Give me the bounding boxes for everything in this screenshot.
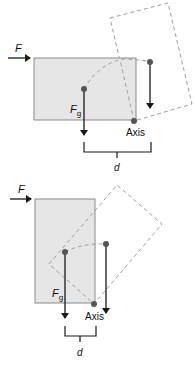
top-axis-label: Axis xyxy=(126,127,145,138)
top-distance-bracket xyxy=(84,142,151,158)
top-center-of-mass-dot xyxy=(81,86,87,92)
bottom-rotated-com-dot xyxy=(103,241,109,247)
bottom-diagram: F Fg Axis d xyxy=(10,183,162,358)
torque-tipping-diagram: F Fg Axis d F Fg xyxy=(0,0,195,369)
top-force-label: F xyxy=(15,42,23,54)
top-distance-label: d xyxy=(114,162,120,173)
top-rotated-com-dot xyxy=(147,59,153,65)
bottom-center-of-mass-dot xyxy=(62,249,68,255)
bottom-force-label: F xyxy=(18,183,26,195)
bottom-axis-label: Axis xyxy=(85,311,104,322)
bottom-distance-label: d xyxy=(77,347,83,358)
top-axis-pivot-dot xyxy=(131,118,137,124)
bottom-distance-bracket xyxy=(65,326,96,342)
bottom-axis-pivot-dot xyxy=(91,301,97,307)
top-diagram: F Fg Axis d xyxy=(8,3,192,173)
